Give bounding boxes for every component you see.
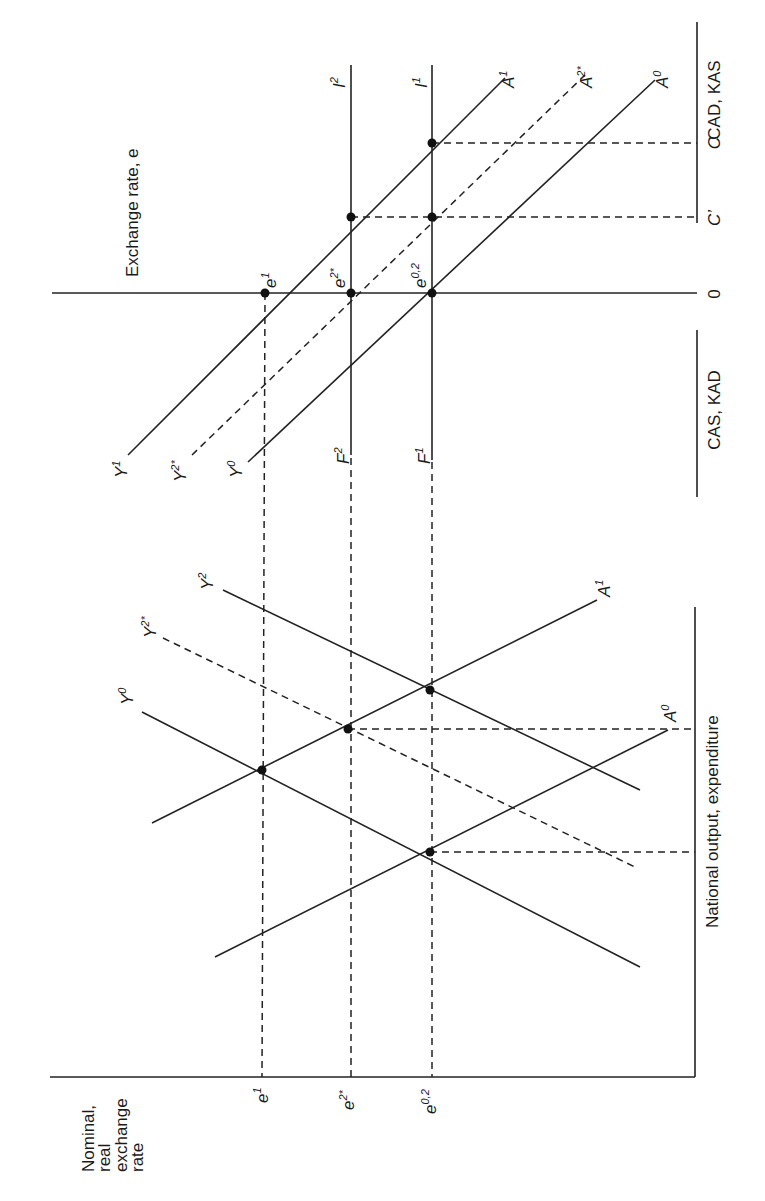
top-panel: [52, 22, 697, 1077]
cad-kas-label: CAD, KAS: [705, 60, 724, 139]
label-y2-bottom: Y2: [196, 573, 217, 590]
e1-dashed-line: [262, 293, 265, 1077]
tick-e1-bottom: e1: [251, 1087, 272, 1103]
label-a1-bottom: A1: [593, 580, 614, 598]
a2star-y2star-schedule: [192, 75, 585, 455]
point-i1-a1: [428, 139, 437, 148]
label-e1-top: e1: [259, 272, 280, 288]
cas-kad-label: CAS, KAD: [705, 370, 724, 449]
y0-output-schedule: [142, 712, 640, 967]
label-e2star-top: e2*: [328, 267, 349, 288]
tick-c: C: [705, 136, 724, 149]
tick-e2star-bottom: e2*: [337, 1089, 358, 1110]
label-a2star-top: A2*: [575, 66, 596, 89]
two-panel-exchange-rate-diagram: Exchange rate, e CAD, KAS CAS, KAD C C’ …: [0, 0, 765, 1201]
label-y2star-bottom: Y2*: [139, 616, 160, 638]
a1-expenditure-schedule: [152, 600, 597, 823]
point-e1: [261, 289, 270, 298]
label-y0-top: Y0: [225, 460, 246, 478]
point-i1-a2star: [428, 213, 437, 222]
point-i2-a1: [347, 213, 356, 222]
label-f2: F2: [332, 447, 353, 464]
tick-e02-bottom: e0,2: [419, 1089, 440, 1114]
label-e02-top: e0,2: [409, 263, 430, 288]
label-a1-top: A1: [497, 71, 518, 89]
point-y2star-a1: [344, 725, 353, 734]
exchange-rate-axis-title: Exchange rate, e: [123, 148, 142, 277]
bottom-panel: [50, 590, 695, 1077]
national-output-axis-title: National output, expenditure: [703, 715, 722, 928]
label-a0-bottom: A0: [659, 704, 680, 723]
label-f1: F1: [413, 447, 434, 464]
label-i2: I2: [328, 77, 349, 88]
tick-c-prime: C’: [705, 210, 724, 226]
point-y2-a1: [426, 686, 435, 695]
tick-zero: 0: [705, 289, 724, 298]
point-y0-a0: [426, 848, 435, 857]
label-i1: I1: [410, 77, 431, 88]
label-y0-bottom: Y0: [116, 687, 137, 705]
label-a0-top: A0: [651, 70, 672, 89]
point-e2star: [347, 289, 356, 298]
nominal-real-exchange-rate-title: Nominal, real exchange rate: [79, 1098, 147, 1172]
point-e02: [428, 289, 437, 298]
a0-expenditure-schedule: [215, 730, 668, 957]
a0-y0-schedule: [248, 80, 655, 462]
label-y2star-top: Y2*: [169, 460, 190, 482]
point-y0-a1: [258, 766, 267, 775]
y2star-output-schedule: [163, 638, 637, 868]
svg-text:rate: rate: [128, 1143, 147, 1172]
label-y1-top: Y1: [110, 461, 131, 478]
